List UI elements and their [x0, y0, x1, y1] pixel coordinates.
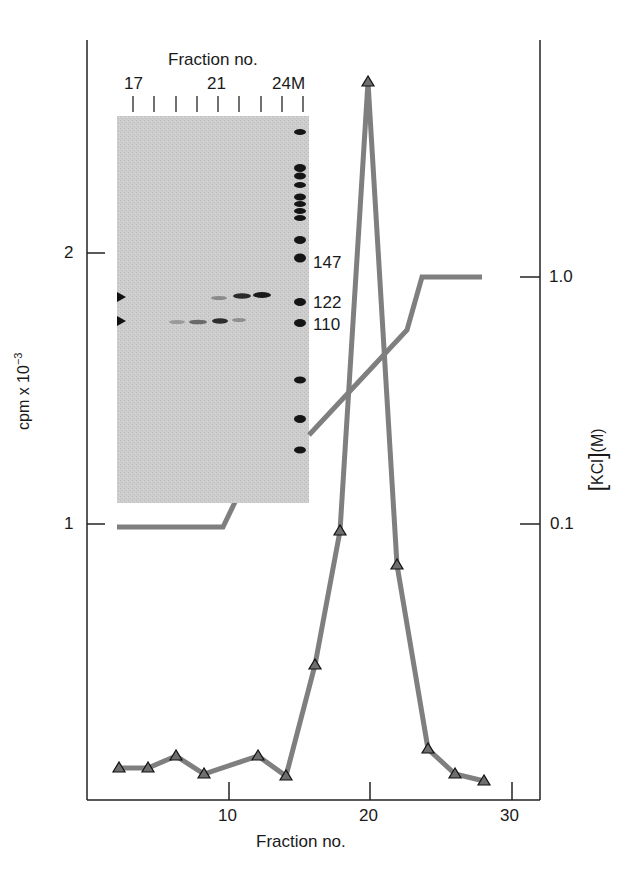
triangle-marker-icon	[391, 559, 403, 569]
y-left-axis-title: cpm x 10−3	[12, 353, 33, 430]
gel-lane-ticks	[133, 96, 303, 112]
inset-title: Fraction no.	[168, 50, 258, 70]
triangle-marker-icon	[170, 750, 182, 760]
x-tick-label-20: 20	[359, 806, 378, 826]
triangle-marker-icon	[309, 659, 321, 669]
x-tick-label-10: 10	[218, 806, 237, 826]
y-left-title-exponent: −3	[12, 353, 24, 366]
marker-label-110: 110	[313, 315, 340, 335]
triangle-marker-icon	[362, 76, 374, 86]
x-axis-title: Fraction no.	[256, 832, 346, 852]
chart-canvas	[0, 0, 632, 878]
triangle-marker-icon	[334, 525, 346, 535]
y-right-title-kcl: KCl	[589, 459, 606, 485]
inset-lane-label-17: 17	[124, 74, 143, 94]
x-tick-label-30: 30	[500, 806, 519, 826]
inset-lane-label-24M: 24M	[272, 74, 305, 94]
y-left-tick-label-2: 2	[64, 243, 73, 263]
inset-lane-label-21: 21	[207, 74, 226, 94]
triangle-marker-icon	[422, 743, 434, 753]
y-right-tick-label-0.1: 0.1	[550, 514, 574, 534]
kcl-bracket-close: ]	[583, 452, 610, 459]
marker-label-147: 147	[313, 253, 341, 273]
marker-label-122: 122	[313, 293, 341, 313]
y-right-axis-title: [KCl](M)	[583, 428, 611, 491]
gel-background	[117, 116, 309, 503]
y-right-title-unit: (M)	[589, 428, 606, 452]
y-left-tick-label-1: 1	[64, 514, 73, 534]
kcl-bracket-open: [	[583, 485, 610, 492]
kcl-gradient-line	[117, 500, 236, 527]
y-right-tick-label-1.0: 1.0	[549, 267, 573, 287]
gel-inset	[117, 96, 309, 503]
y-left-title-main: cpm x 10	[15, 365, 32, 430]
